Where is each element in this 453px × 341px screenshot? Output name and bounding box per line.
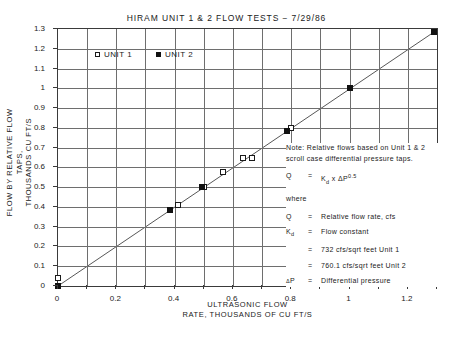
legend-label-unit2: UNIT 2 xyxy=(165,50,193,59)
legend-entry-unit2: UNIT 2 xyxy=(156,50,193,59)
x-tick-mark xyxy=(86,285,87,289)
note-def-kd-text: Flow constant xyxy=(321,227,369,240)
open-square-marker-icon xyxy=(95,52,100,57)
x-tick-mark xyxy=(57,285,58,289)
note-equation-equals: = xyxy=(308,171,321,187)
note-kd-unit1-equals: = xyxy=(308,245,321,256)
y-tick-label: 0.1 xyxy=(3,261,45,270)
note-kd-unit2-equals: = xyxy=(308,261,321,272)
note-equation-rhs: Kd x ΔP0.5 xyxy=(321,171,357,187)
note-def-kd-symbol: Kd xyxy=(286,227,308,240)
y-tick-label: 1.2 xyxy=(3,43,45,52)
note-intro: Note: Relative flows based on Unit 1 & 2… xyxy=(286,143,438,164)
x-axis-title-line2: RATE, THOUSANDS OF CU FT/S xyxy=(57,310,438,320)
note-def-q: Q = Relative flow rate, cfs xyxy=(286,212,438,223)
note-where: where xyxy=(286,194,438,205)
x-tick-mark xyxy=(261,285,262,289)
legend-entry-unit1: UNIT 1 xyxy=(95,50,132,59)
note-def-dp-equals: = xyxy=(308,276,321,287)
y-axis-title-line1: FLOW BY RELATIVE FLOW TAPS, xyxy=(5,97,24,227)
note-def-dp: ΔP = Differential pressure xyxy=(286,276,438,287)
note-def-kd: Kd = Flow constant xyxy=(286,227,438,240)
note-def-kd-equals: = xyxy=(308,227,321,240)
note-def-dp-text: Differential pressure xyxy=(321,276,391,287)
note-block: Note: Relative flows based on Unit 1 & 2… xyxy=(286,143,438,287)
note-def-q-equals: = xyxy=(308,212,321,223)
note-kd-unit2-text: 760.1 cfs/sqrt feet Unit 2 xyxy=(321,261,406,272)
x-tick-mark xyxy=(232,285,233,289)
note-kd-unit1: = 732 cfs/sqrt feet Unit 1 xyxy=(286,245,438,256)
note-def-q-symbol: Q xyxy=(286,212,308,223)
filled-square-marker-icon xyxy=(156,52,161,57)
y-axis-title-line2: THOUSANDS CU FT/S xyxy=(24,97,34,227)
y-axis-title: FLOW BY RELATIVE FLOW TAPS, THOUSANDS CU… xyxy=(5,97,34,227)
note-kd-unit2: = 760.1 cfs/sqrt feet Unit 2 xyxy=(286,261,438,272)
note-equation-lhs: Q xyxy=(286,171,308,187)
chart-figure: HIRAM UNIT 1 & 2 FLOW TESTS − 7/29/86 00… xyxy=(0,0,453,341)
y-tick-label: 1.1 xyxy=(3,63,45,72)
legend-label-unit1: UNIT 1 xyxy=(104,50,132,59)
note-equation: Q = Kd x ΔP0.5 xyxy=(286,171,438,187)
note-kd-unit1-text: 732 cfs/sqrt feet Unit 1 xyxy=(321,245,399,256)
y-tick-label: 0.2 xyxy=(3,241,45,250)
y-tick-label: 1.3 xyxy=(3,24,45,33)
y-tick-label: 1 xyxy=(3,83,45,92)
note-def-q-text: Relative flow rate, cfs xyxy=(321,212,396,223)
note-def-dp-symbol: ΔP xyxy=(286,276,308,287)
x-tick-mark xyxy=(174,285,175,289)
chart-title: HIRAM UNIT 1 & 2 FLOW TESTS − 7/29/86 xyxy=(0,13,453,23)
x-axis-title: ULTRASONIC FLOW RATE, THOUSANDS OF CU FT… xyxy=(57,300,438,319)
x-axis-title-line1: ULTRASONIC FLOW xyxy=(57,300,438,310)
x-tick-mark xyxy=(203,285,204,289)
x-tick-mark xyxy=(144,285,145,289)
y-tick-label: 0 xyxy=(3,281,45,290)
x-tick-mark xyxy=(115,285,116,289)
